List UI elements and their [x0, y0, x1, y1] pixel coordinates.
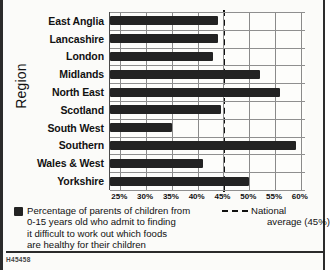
legend-series-line-1: Percentage of parents of children from	[27, 205, 190, 216]
bar	[110, 52, 213, 61]
category-label: Southern	[21, 137, 107, 155]
x-tick-label: 40%	[189, 192, 205, 201]
x-tick-label: 60%	[292, 192, 308, 201]
category-label: Lancashire	[21, 30, 107, 48]
x-tick-label: 30%	[137, 192, 153, 201]
gridline-horizontal	[110, 190, 305, 191]
bar	[110, 159, 203, 168]
bar-row	[110, 172, 306, 190]
category-label: South West	[21, 119, 107, 137]
bar-row	[110, 83, 306, 101]
legend-average-line-2: average (45%)	[251, 216, 330, 227]
legend-series-text: Percentage of parents of children from 0…	[27, 205, 190, 251]
dashed-line-icon	[222, 210, 248, 212]
bar-row	[110, 65, 306, 83]
bar	[110, 16, 218, 25]
bar-row	[110, 12, 306, 30]
bar	[110, 70, 260, 79]
bar-row	[110, 137, 306, 155]
x-tick-label: 45%	[214, 192, 230, 201]
bar-row	[110, 119, 306, 137]
category-label: Yorkshire	[21, 172, 107, 190]
category-label: Scotland	[21, 101, 107, 119]
bar	[110, 123, 172, 132]
bar	[110, 141, 296, 150]
legend-average-entry: National average (45%)	[222, 205, 332, 228]
bar-row	[110, 48, 306, 66]
category-label: North East	[21, 83, 107, 101]
bar-row	[110, 30, 306, 48]
bar	[110, 34, 218, 43]
category-label: Wales & West	[21, 154, 107, 172]
x-tick-label: 25%	[111, 192, 127, 201]
bar	[110, 105, 221, 114]
category-label: London	[21, 48, 107, 66]
bar-row	[110, 101, 306, 119]
x-tick-label: 35%	[163, 192, 179, 201]
bar	[110, 177, 249, 186]
category-label-column: East AngliaLancashireLondonMidlandsNorth…	[21, 12, 107, 190]
plot-area	[109, 12, 305, 190]
legend-average-text: National average (45%)	[251, 205, 330, 228]
legend-series-line-2: 0-15 years old who admit to finding	[27, 216, 176, 227]
category-label: Midlands	[21, 65, 107, 83]
chart-legend: Percentage of parents of children from 0…	[14, 205, 319, 255]
legend-series-line-3: it difficult to work out which foods	[27, 228, 167, 239]
x-tick-label: 50%	[240, 192, 256, 201]
legend-bar-swatch-icon	[14, 207, 23, 216]
x-axis-tick-labels: 25%30%35%40%45%50%55%60%	[109, 192, 305, 206]
reference-code: H45458	[6, 256, 31, 263]
category-label: East Anglia	[21, 12, 107, 30]
footer-divider	[6, 251, 324, 253]
legend-series-entry: Percentage of parents of children from 0…	[14, 205, 209, 251]
bar	[110, 88, 280, 97]
x-tick-label: 55%	[266, 192, 282, 201]
legend-series-line-4: are healthy for their children	[27, 239, 146, 250]
legend-average-line-1: National	[251, 205, 286, 216]
bar-row	[110, 154, 306, 172]
